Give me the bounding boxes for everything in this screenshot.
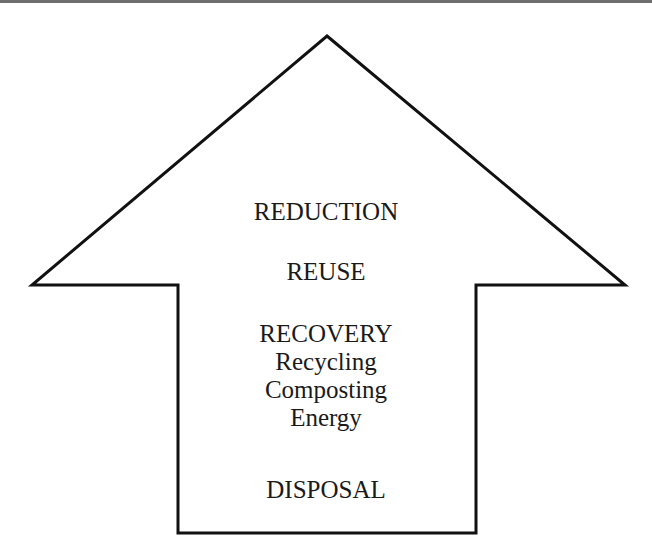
recovery-item-recycling: Recycling	[0, 349, 652, 374]
recovery-item-composting: Composting	[0, 377, 652, 402]
level-reduction: REDUCTION	[0, 199, 652, 224]
level-recovery: RECOVERY	[0, 321, 652, 346]
recovery-item-energy: Energy	[0, 405, 652, 430]
level-reuse: REUSE	[0, 259, 652, 284]
level-disposal: DISPOSAL	[0, 477, 652, 502]
